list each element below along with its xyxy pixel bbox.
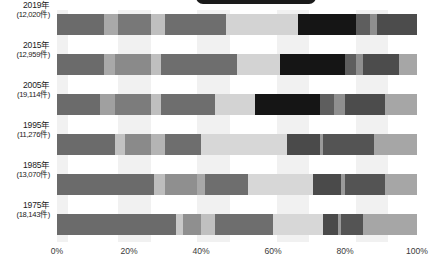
- table-row: [57, 174, 417, 195]
- table-row: [57, 14, 417, 35]
- x-axis-tick-label: 100%: [406, 246, 428, 256]
- table-row: [57, 214, 417, 235]
- stacked-bar-chart: 2019年(12,020件)2015年(12,959件)2005年(19,114…: [0, 0, 438, 264]
- bar-segment: [57, 14, 104, 35]
- y-axis-labels: 2019年(12,020件)2015年(12,959件)2005年(19,114…: [0, 10, 57, 242]
- bar-segment: [154, 174, 165, 195]
- bar-segment: [374, 134, 417, 155]
- bar-segment: [118, 14, 150, 35]
- x-axis-tick-label: 20%: [120, 246, 137, 256]
- bar-segment: [298, 14, 356, 35]
- bar-segment: [201, 134, 287, 155]
- bar-segment: [345, 174, 385, 195]
- y-label-count: (13,070件): [0, 171, 50, 180]
- bar-segment: [115, 54, 151, 75]
- y-axis-label: 1985年(13,070件): [0, 161, 50, 179]
- bar-segment: [320, 94, 334, 115]
- bar-segment: [205, 174, 248, 195]
- y-label-count: (19,114件): [0, 91, 50, 100]
- bar-segment: [165, 14, 226, 35]
- bar-rows: [57, 10, 417, 242]
- bar-segment: [255, 94, 320, 115]
- y-axis-label: 2015年(12,959件): [0, 41, 50, 59]
- x-axis-ticks: 0%20%40%60%80%100%: [57, 246, 417, 260]
- bar-segment: [197, 174, 204, 195]
- bar-segment: [226, 14, 298, 35]
- title-capsule-fragment: [196, 0, 316, 4]
- bar-segment: [377, 14, 417, 35]
- bar-segment: [176, 214, 183, 235]
- bar-segment: [100, 94, 114, 115]
- table-row: [57, 94, 417, 115]
- bar-segment: [363, 54, 399, 75]
- bar-segment: [237, 54, 280, 75]
- bar-segment: [165, 134, 201, 155]
- y-axis-label: 2019年(12,020件): [0, 1, 50, 19]
- bar-segment: [215, 94, 255, 115]
- bar-segment: [115, 134, 126, 155]
- bar-segment: [183, 214, 201, 235]
- x-axis-tick-label: 40%: [192, 246, 209, 256]
- bar-segment: [161, 94, 215, 115]
- y-axis-label: 1975年(18,143件): [0, 201, 50, 219]
- bar-segment: [323, 214, 337, 235]
- bar-segment: [57, 54, 104, 75]
- bar-segment: [57, 94, 100, 115]
- bar-segment: [287, 134, 319, 155]
- x-axis-tick-label: 80%: [336, 246, 353, 256]
- bar-segment: [151, 134, 165, 155]
- bar-segment: [104, 14, 118, 35]
- bar-segment: [280, 54, 345, 75]
- bar-segment: [125, 134, 150, 155]
- bar-segment: [370, 14, 377, 35]
- table-row: [57, 54, 417, 75]
- bar-segment: [201, 214, 215, 235]
- bar-segment: [57, 174, 154, 195]
- bar-segment: [385, 94, 417, 115]
- bar-segment: [115, 94, 151, 115]
- bar-segment: [57, 134, 115, 155]
- bar-segment: [345, 54, 356, 75]
- bar-segment: [57, 214, 176, 235]
- bar-segment: [356, 14, 370, 35]
- bar-segment: [215, 214, 273, 235]
- bar-segment: [399, 54, 417, 75]
- bar-segment: [341, 214, 363, 235]
- bar-segment: [151, 94, 162, 115]
- y-label-count: (11,276件): [0, 131, 50, 140]
- bar-segment: [356, 54, 363, 75]
- y-label-count: (18,143件): [0, 211, 50, 220]
- bar-segment: [273, 214, 323, 235]
- bar-segment: [104, 54, 115, 75]
- bar-segment: [248, 174, 313, 195]
- bar-segment: [323, 134, 373, 155]
- bar-segment: [385, 174, 417, 195]
- y-axis-label: 1995年(11,276件): [0, 121, 50, 139]
- bar-segment: [151, 14, 165, 35]
- x-axis-tick-label: 0%: [51, 246, 63, 256]
- bar-segment: [345, 94, 385, 115]
- table-row: [57, 134, 417, 155]
- y-axis-label: 2005年(19,114件): [0, 81, 50, 99]
- x-axis-tick-label: 60%: [264, 246, 281, 256]
- bar-segment: [161, 54, 237, 75]
- bar-segment: [313, 174, 342, 195]
- bar-segment: [334, 94, 345, 115]
- bar-segment: [165, 174, 197, 195]
- bar-segment: [363, 214, 417, 235]
- bar-segment: [151, 54, 162, 75]
- plot-area: [57, 10, 417, 242]
- y-label-count: (12,959件): [0, 51, 50, 60]
- y-label-count: (12,020件): [0, 11, 50, 20]
